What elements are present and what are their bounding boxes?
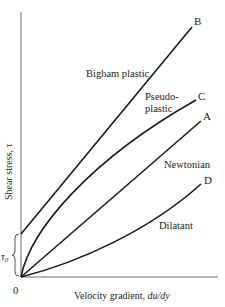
point-label-c: C <box>198 90 205 102</box>
origin-label: 0 <box>13 285 18 296</box>
yield-stress-label: τ0 <box>1 251 9 264</box>
label-newtonian: Newtonian <box>164 159 211 170</box>
label-dilatant: Dilatant <box>159 220 193 231</box>
label-bingham-plastic: Bigham plastic <box>86 68 150 79</box>
point-label-b: B <box>194 15 201 27</box>
label-pseudoplastic-line2: plastic <box>145 103 173 114</box>
rheology-diagram: τ0 0 B C A D Bigham plastic Pseudo- plas… <box>0 0 225 307</box>
curve-c-pseudoplastic <box>21 100 196 277</box>
label-pseudoplastic-line1: Pseudo- <box>145 91 179 102</box>
curve-a-newtonian <box>21 121 201 277</box>
point-label-a: A <box>203 110 211 122</box>
y-axis-title: Shear stress, τ <box>3 143 14 200</box>
x-axis-title: Velocity gradient, du/dy <box>74 290 170 301</box>
point-label-d: D <box>204 174 212 186</box>
yield-stress-brace <box>12 234 19 276</box>
